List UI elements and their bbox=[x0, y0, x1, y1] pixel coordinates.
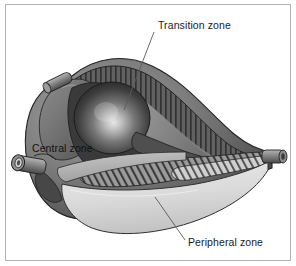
urethra-stub-right bbox=[262, 150, 287, 163]
label-peripheral-zone: Peripheral zone bbox=[188, 236, 263, 248]
figure-frame: Transition zone Central zone Peripheral … bbox=[0, 0, 296, 266]
label-central-zone: Central zone bbox=[32, 142, 93, 154]
prostate-zonal-anatomy-diagram: Transition zone Central zone Peripheral … bbox=[0, 0, 296, 266]
label-transition-zone: Transition zone bbox=[158, 19, 231, 31]
